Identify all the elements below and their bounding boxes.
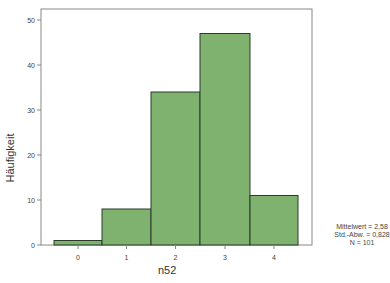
- histogram-bar: [200, 34, 250, 246]
- mean-stat: Mittelwert = 2,58: [330, 223, 390, 231]
- histogram-bar: [54, 241, 102, 246]
- x-axis-title: n52: [158, 264, 176, 276]
- y-axis-title: Häufigkeit: [0, 118, 20, 198]
- y-tick-label: 30: [27, 107, 35, 114]
- y-tick-label: 40: [27, 62, 35, 69]
- y-tick-label: 10: [27, 197, 35, 204]
- y-axis-label: Häufigkeit: [4, 134, 16, 183]
- histogram-bar: [102, 209, 151, 245]
- sd-stat: Std.-Abw. = 0,828: [330, 231, 390, 239]
- y-tick-label: 0: [31, 242, 35, 249]
- n-stat: N = 101: [330, 239, 390, 247]
- x-tick-label: 4: [272, 254, 276, 261]
- statistics-box: Mittelwert = 2,58 Std.-Abw. = 0,828 N = …: [330, 223, 390, 247]
- x-tick-label: 0: [76, 254, 80, 261]
- x-tick-label: 2: [174, 254, 178, 261]
- y-tick-label: 50: [27, 17, 35, 24]
- x-tick-label: 1: [125, 254, 129, 261]
- histogram-bar: [151, 92, 200, 245]
- y-tick-label: 20: [27, 152, 35, 159]
- x-tick-label: 3: [223, 254, 227, 261]
- histogram-bar: [250, 196, 298, 246]
